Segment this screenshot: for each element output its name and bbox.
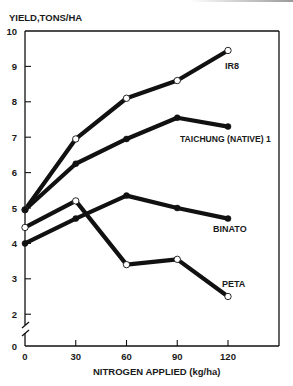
filled-circle-marker [174, 115, 180, 121]
filled-circle-marker [225, 124, 231, 130]
x-axis-ticks: 0306090120 [22, 340, 236, 362]
series-peta [25, 201, 228, 297]
series-lines [22, 47, 231, 299]
series-label-ir8: IR8 [225, 61, 239, 71]
x-tick-label: 0 [22, 351, 27, 362]
y-tick-label: 0 [12, 341, 17, 352]
y-tick-label: 6 [12, 167, 17, 178]
filled-circle-marker [22, 207, 28, 213]
y-tick-label: 3 [12, 273, 17, 284]
filled-circle-marker [73, 216, 79, 222]
yield-chart: YIELD,TONS/HA 02345678910 0306090120 IR8… [0, 0, 293, 386]
open-circle-marker [225, 47, 231, 53]
series-label-binato: BINATO [213, 224, 247, 234]
y-axis-ticks: 02345678910 [6, 26, 31, 352]
y-tick-label: 7 [12, 132, 17, 143]
x-tick-label: 120 [220, 351, 236, 362]
x-tick-label: 30 [70, 351, 81, 362]
series-label-peta: PETA [222, 279, 246, 289]
y-tick-label: 8 [12, 96, 17, 107]
open-circle-marker [22, 224, 28, 230]
x-axis-title: NITROGEN APPLIED (kg/ha) [93, 366, 220, 377]
filled-circle-marker [73, 161, 79, 167]
series-binato [25, 196, 228, 244]
y-tick-label: 5 [12, 203, 18, 214]
y-tick-label: 4 [12, 238, 18, 249]
series-label-taichung: TAICHUNG (NATIVE) 1 [180, 134, 271, 144]
filled-circle-marker [124, 136, 130, 142]
x-tick-label: 90 [172, 351, 183, 362]
y-tick-label: 9 [12, 61, 17, 72]
open-circle-marker [73, 198, 79, 204]
open-circle-marker [174, 77, 180, 83]
open-circle-marker [123, 95, 129, 101]
filled-circle-marker [174, 205, 180, 211]
plot-frame [22, 31, 279, 346]
open-circle-marker [73, 136, 79, 142]
filled-circle-marker [22, 240, 28, 246]
filled-circle-marker [225, 216, 231, 222]
y-tick-label: 10 [6, 26, 17, 37]
open-circle-marker [123, 261, 129, 267]
series-ir8 [25, 50, 228, 209]
x-tick-label: 60 [121, 351, 132, 362]
open-circle-marker [225, 293, 231, 299]
y-axis-title: YIELD,TONS/HA [9, 12, 82, 23]
filled-circle-marker [124, 193, 130, 199]
open-circle-marker [174, 256, 180, 262]
y-tick-label: 2 [12, 309, 17, 320]
